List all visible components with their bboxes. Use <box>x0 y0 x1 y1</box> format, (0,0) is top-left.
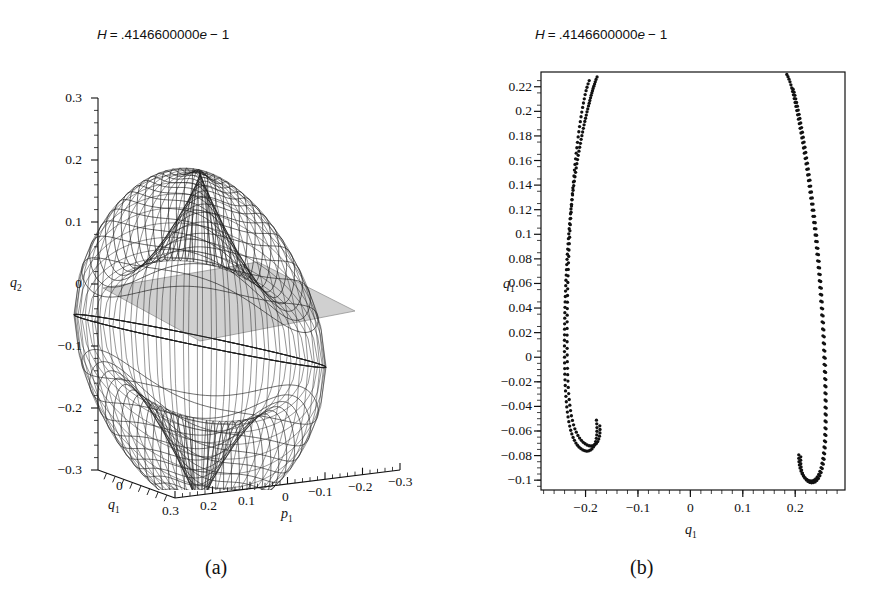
scatter-point <box>565 400 568 403</box>
scatter-point <box>821 314 824 317</box>
scatter-point <box>816 240 819 243</box>
scatter-point <box>822 328 825 331</box>
tick-q2-0: 0.3 <box>30 90 82 106</box>
axis-label-p1-sub: 1 <box>288 514 293 524</box>
tick-q2-3: 0 <box>30 276 82 292</box>
scatter-point <box>564 389 567 392</box>
scatter-point <box>568 404 571 407</box>
scatter-point <box>811 202 814 205</box>
tick-p1-1: 0.2 <box>200 498 217 514</box>
scatter-point <box>580 134 583 137</box>
scatter-point <box>595 430 598 433</box>
scatter-point <box>575 151 578 154</box>
scatter-point <box>598 424 601 427</box>
y-tick-label-10: 0.02 <box>440 325 532 341</box>
scatter-point <box>814 227 817 230</box>
scatter-point <box>570 204 573 207</box>
tick-p1-2: 0.1 <box>238 493 255 509</box>
scatter-point <box>804 151 807 154</box>
scatter-point <box>565 327 568 330</box>
axis-q1-depth <box>98 470 175 498</box>
scatter-point <box>570 198 573 201</box>
scatter-point <box>584 117 587 120</box>
surface-3d-mesh <box>74 168 355 514</box>
panel-b: H=.4146600000e− 1 0.220.20.180.160.140.1… <box>440 0 874 609</box>
scatter-point <box>566 307 569 310</box>
y-tick-label-8: 0.06 <box>440 275 532 291</box>
scatter-point <box>588 79 591 82</box>
scatter-point <box>579 115 582 118</box>
scatter-point <box>824 446 827 449</box>
y-tick-label-7: 0.08 <box>440 251 532 267</box>
scatter-point <box>800 126 803 129</box>
scatter-point <box>567 392 570 395</box>
scatter-point <box>824 440 827 443</box>
y-tick-label-5: 0.12 <box>440 202 532 218</box>
y-tick-label-3: 0.16 <box>440 153 532 169</box>
scatter-point <box>825 413 828 416</box>
scatter-point <box>794 97 797 100</box>
scatter-point <box>566 281 569 284</box>
scatter-point <box>570 414 573 417</box>
mesh-line <box>85 315 200 510</box>
scatter-point <box>569 429 572 432</box>
scatter-point <box>570 432 573 435</box>
scatter-point <box>813 215 816 218</box>
scatter-point <box>798 117 801 120</box>
scatter-point <box>805 156 808 159</box>
scatter-point <box>568 424 571 427</box>
axis-label-q1-depth-sub: 1 <box>115 505 120 515</box>
scatter-point <box>583 97 586 100</box>
scatter-point <box>809 184 812 187</box>
scatter-point <box>566 314 569 317</box>
scatter-point <box>795 101 798 104</box>
scatter-point <box>821 300 824 303</box>
scatter-point <box>563 311 566 314</box>
axis-label-q1-x-text: q <box>685 522 692 537</box>
scatter-point <box>564 395 567 398</box>
scatter-point <box>796 105 799 108</box>
scatter-point <box>583 120 586 123</box>
scatter-point <box>578 146 581 149</box>
tick-q2-4: −0.1 <box>30 338 82 354</box>
scatter-point <box>567 261 570 264</box>
mesh-line <box>74 315 200 486</box>
tick-q2-6: −0.3 <box>30 462 82 478</box>
scatter-point <box>566 320 569 323</box>
axis-label-p1: p1 <box>281 506 293 524</box>
scatter-point <box>582 101 585 104</box>
scatter-point <box>792 91 795 94</box>
tick-p1-3: 0 <box>282 489 289 505</box>
scatter-point <box>574 157 577 160</box>
scatter-point <box>565 405 568 408</box>
scatter-point <box>580 138 583 141</box>
scatter-point <box>824 392 827 395</box>
scatter-point <box>571 192 574 195</box>
tick-p1-6: −0.3 <box>388 474 413 490</box>
scatter-point <box>571 186 574 189</box>
y-tick-label-9: 0.04 <box>440 300 532 316</box>
scatter-point <box>595 422 598 425</box>
plot-frame <box>541 72 845 490</box>
y-tick-label-12: −0.02 <box>440 374 532 390</box>
scatter-point <box>566 410 569 413</box>
scatter-point <box>575 146 578 149</box>
scatter-point <box>814 221 817 224</box>
scatter-point <box>577 150 580 153</box>
scatter-point <box>573 427 576 430</box>
y-tick-label-11: 0 <box>440 349 532 365</box>
mesh-line <box>82 349 318 424</box>
scatter-point <box>582 123 585 126</box>
x-tick-label-4: 0.2 <box>765 500 825 516</box>
tick-q1-depth-0: 0 <box>116 478 123 494</box>
scatter-point <box>578 125 581 128</box>
y-tick-label-16: −0.1 <box>440 472 532 488</box>
scatter-point <box>803 146 806 149</box>
scatter-point <box>817 253 820 256</box>
scatter-point <box>598 428 601 431</box>
scatter-point <box>595 426 598 429</box>
scatter-point <box>823 357 826 360</box>
scatter-point <box>566 274 569 277</box>
scatter-point <box>576 141 579 144</box>
scatter-point <box>820 286 823 289</box>
